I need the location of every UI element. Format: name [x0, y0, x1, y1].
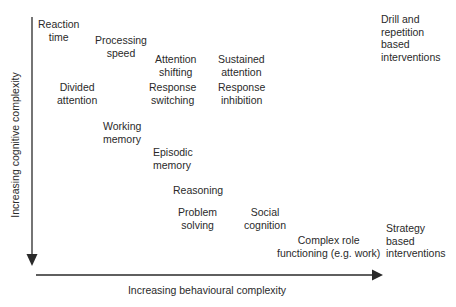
node-response-inhibition: Response inhibition — [218, 81, 265, 106]
node-response-switching: Response switching — [149, 81, 196, 106]
node-complex-role-functioning: Complex role functioning (e.g. work) — [277, 234, 380, 259]
node-problem-solving: Problem solving — [178, 206, 217, 231]
node-working-memory: Working memory — [103, 120, 141, 145]
node-attention-shifting: Attention shifting — [155, 53, 196, 78]
strategy-interventions-label: Strategy based interventions — [386, 222, 446, 260]
y-axis-arrowhead-icon — [27, 254, 38, 266]
x-axis-arrowhead-icon — [372, 270, 383, 281]
node-sustained-attention: Sustained attention — [218, 53, 265, 78]
x-axis-label: Increasing behavioural complexity — [128, 284, 286, 296]
node-episodic-memory: Episodic memory — [153, 146, 193, 171]
node-social-cognition: Social cognition — [244, 206, 286, 231]
node-divided-attention: Divided attention — [57, 81, 97, 106]
y-axis-label: Increasing cognitive complexity — [9, 72, 21, 217]
node-reaction-time: Reaction time — [38, 18, 79, 43]
drill-repetition-interventions-label: Drill and repetition based interventions — [381, 13, 441, 63]
node-processing-speed: Processing speed — [95, 34, 147, 59]
node-reasoning: Reasoning — [173, 184, 223, 197]
